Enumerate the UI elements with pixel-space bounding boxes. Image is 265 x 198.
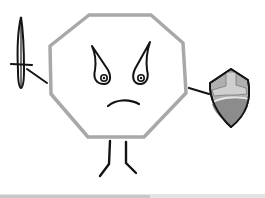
sword-icon <box>11 17 32 88</box>
legs <box>100 141 136 176</box>
paper-edge-shadow <box>0 194 265 198</box>
shield-arm <box>189 88 209 94</box>
sword-arm <box>27 69 47 83</box>
shield-icon <box>210 69 249 127</box>
octagon-body <box>50 15 186 137</box>
